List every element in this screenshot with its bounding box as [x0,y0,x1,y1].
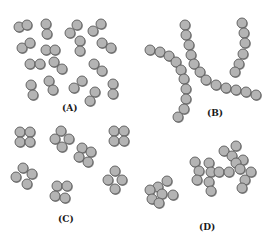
panel-a-label: (A) [62,103,78,113]
panel-c-tetrads [11,126,130,204]
panel-b-streptococci [145,18,262,123]
bacteria-arrangements-diagram [0,0,274,242]
panel-d-label: (D) [199,222,215,232]
panel-a-diplococci [14,19,119,107]
panel-d-staphylococci [145,141,257,209]
panel-b-label: (B) [207,108,223,118]
panel-c-label: (C) [58,214,74,224]
